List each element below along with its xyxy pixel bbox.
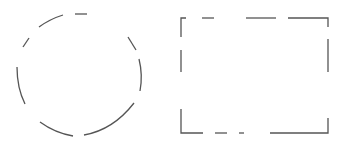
circle-dash-segment: [84, 103, 134, 135]
rectangle-dash-segment: [181, 18, 186, 37]
circle-dash-segment: [23, 38, 29, 47]
diagram-canvas: [0, 0, 343, 142]
circle-dash-segment: [40, 122, 73, 136]
circle-dash-segment: [139, 59, 141, 91]
circle-dash-segment: [128, 37, 136, 50]
dashed-circle: [17, 14, 141, 136]
circle-dash-segment: [39, 15, 63, 27]
circle-dash-segment: [17, 67, 25, 104]
rectangle-dash-segment: [270, 118, 328, 133]
rectangle-dash-segment: [181, 109, 203, 133]
rectangle-dash-segment: [288, 18, 328, 27]
dashed-rectangle: [181, 18, 328, 133]
